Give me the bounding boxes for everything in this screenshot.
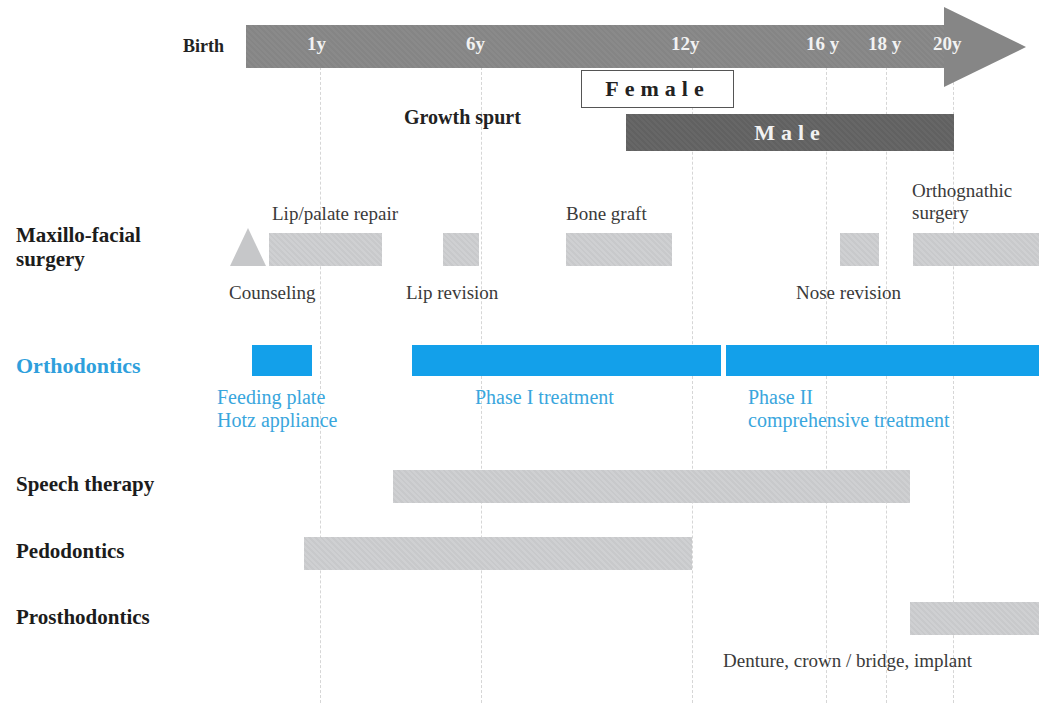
row-label-maxillofacial: Maxillo-facial surgery [16,223,141,271]
phase2-line1: Phase II [748,386,950,409]
birth-label: Birth [183,36,224,57]
orthognathic-label: Orthognathic surgery [912,180,1012,224]
bar-orthognathic-surgery [913,233,1039,266]
counseling-label: Counseling [229,282,316,304]
tick-6y: 6y [466,33,485,55]
bar-speech-therapy [393,470,910,503]
tick-12y: 12y [671,33,700,55]
feeding-plate-label: Feeding plate Hotz appliance [217,386,338,432]
bar-feeding-plate [252,345,312,376]
tick-1y: 1y [307,33,326,55]
bar-phase2 [726,345,1039,376]
gridline-18y [886,67,887,703]
row-label-orthodontics: Orthodontics [16,354,141,378]
gridline-12y [692,67,693,703]
bar-nose-revision [840,233,879,266]
row-label-speech-therapy: Speech therapy [16,472,154,496]
lip-palate-repair-label: Lip/palate repair [272,203,398,225]
gridline-6y [481,67,482,703]
nose-revision-label: Nose revision [796,282,901,304]
phase2-label: Phase II comprehensive treatment [748,386,950,432]
counseling-triangle-icon [230,228,266,266]
gridline-1y [320,67,321,703]
phase1-label: Phase I treatment [475,386,614,409]
timeline-arrow [246,25,946,68]
orthognathic-line1: Orthognathic [912,180,1012,202]
row-label-prosthodontics: Prosthodontics [16,605,150,629]
female-growth-box: Female [581,70,734,108]
orthognathic-line2: surgery [912,202,1012,224]
bone-graft-label: Bone graft [566,203,647,225]
row-label-line2: surgery [16,247,141,271]
feeding-plate-text: Feeding plate [217,386,338,409]
phase2-line2: comprehensive treatment [748,409,950,432]
gridline-16y [826,67,827,703]
bar-phase1 [412,345,721,376]
prosthodontics-note: Denture, crown / bridge, implant [723,650,972,672]
male-growth-bar: Male [626,114,954,151]
tick-16y: 16 y [806,33,839,55]
growth-spurt-label: Growth spurt [404,106,521,129]
tick-20y: 20y [933,33,962,55]
lip-revision-label: Lip revision [406,282,498,304]
bar-lip-revision [443,233,479,266]
tick-18y: 18 y [868,33,901,55]
bar-lip-palate-repair [269,233,382,266]
bar-bone-graft [566,233,672,266]
bar-prosthodontics [910,602,1039,635]
row-label-pedodontics: Pedodontics [16,539,125,563]
hotz-appliance-text: Hotz appliance [217,409,338,432]
bar-pedodontics [304,537,692,570]
row-label-line1: Maxillo-facial [16,223,141,247]
